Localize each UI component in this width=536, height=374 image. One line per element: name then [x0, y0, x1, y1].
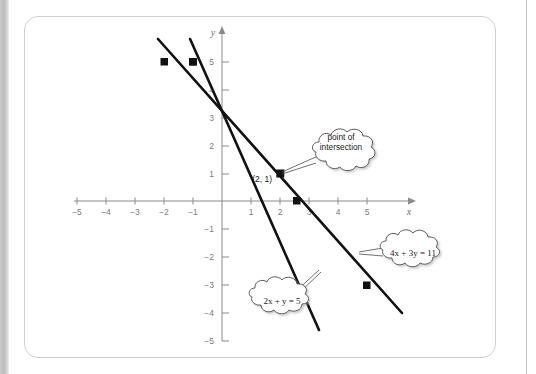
- point-marker-neg1-5: [190, 58, 198, 66]
- callout-intersection-line2: intersection: [320, 142, 363, 152]
- axes-group: x y: [74, 26, 416, 341]
- callout-equation-4x-3y-11: 4x + 3y = 11: [359, 230, 440, 267]
- x-tick-label: 5: [365, 207, 370, 217]
- y-tick-label: −5: [204, 336, 214, 346]
- point-marker-2p5-0: [293, 197, 301, 205]
- callout-equation-1-text: 2x + y = 5: [263, 296, 301, 306]
- x-tick-label: −5: [72, 207, 82, 217]
- point-marker-5-neg3: [363, 282, 371, 290]
- y-tick-label: −3: [204, 280, 214, 290]
- y-tick-label: −4: [204, 308, 214, 318]
- y-axis-name-label: y: [210, 27, 216, 38]
- x-tick-label: −4: [101, 207, 111, 217]
- x-tick-label: 4: [336, 207, 341, 217]
- x-tick-label: −2: [159, 207, 169, 217]
- x-axis-tick-labels: −5 −4 −3 −2 −1 1 2 3 4 5: [72, 207, 369, 217]
- graph-canvas: x y −5 −4 −3 −2 −1: [0, 0, 536, 374]
- x-tick-label: 1: [249, 207, 254, 217]
- y-tick-label: 1: [209, 169, 214, 179]
- figure-page: x y −5 −4 −3 −2 −1: [0, 0, 536, 374]
- x-tick-label: −3: [130, 207, 140, 217]
- callout-equation-2-text: 4x + 3y = 11: [390, 248, 436, 258]
- x-tick-label: −1: [188, 207, 198, 217]
- y-axis-arrowhead: [219, 26, 226, 34]
- y-tick-label: 5: [209, 57, 214, 67]
- callout-intersection-line1: point of: [327, 132, 355, 142]
- callout-point-of-intersection: point of intersection: [282, 129, 375, 174]
- y-tick-label: −2: [204, 252, 214, 262]
- y-tick-label: −1: [204, 224, 214, 234]
- x-tick-label: 2: [278, 207, 283, 217]
- y-tick-label: 3: [209, 113, 214, 123]
- x-axis-arrowhead: [408, 198, 416, 205]
- x-axis-name-label: x: [406, 206, 412, 217]
- point-marker-minus1-5: [161, 58, 169, 66]
- y-tick-label: 2: [209, 141, 214, 151]
- intersection-coordinate-label: (2, 1): [252, 174, 272, 184]
